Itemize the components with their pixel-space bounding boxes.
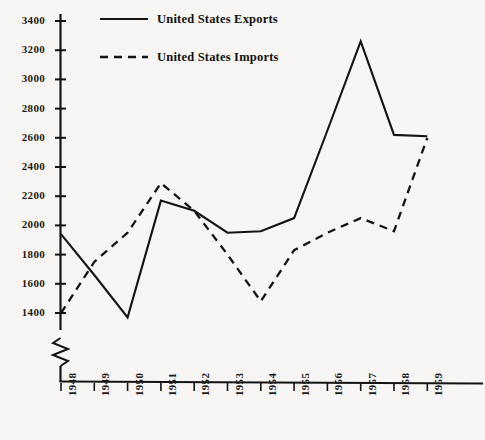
legend-label-imports: United States Imports <box>157 50 279 65</box>
y-tick-label: 3000 <box>5 72 45 84</box>
y-tick-label: 2400 <box>5 160 45 172</box>
x-tick-label: 1958 <box>399 373 411 396</box>
y-tick-label: 2600 <box>5 131 45 143</box>
exports-line <box>61 41 427 317</box>
x-tick-label: 1951 <box>166 373 178 396</box>
x-tick-label: 1959 <box>432 373 444 396</box>
y-tick-label: 2200 <box>5 189 45 201</box>
x-tick-label: 1950 <box>133 373 145 396</box>
x-tick-label: 1948 <box>66 373 78 396</box>
x-tick-label: 1953 <box>233 373 245 396</box>
legend-label-exports: United States Exports <box>157 12 278 27</box>
axis-break-symbol <box>53 338 68 366</box>
y-tick-label: 2800 <box>5 102 45 114</box>
y-tick-label: 1800 <box>5 248 45 260</box>
y-tick-label: 1400 <box>5 306 45 318</box>
y-tick-label: 2000 <box>5 218 45 230</box>
x-tick-label: 1955 <box>299 373 311 396</box>
imports-line <box>61 138 427 313</box>
x-tick-label: 1957 <box>366 373 378 396</box>
x-tick-label: 1952 <box>199 373 211 396</box>
line-chart-figure: 3400320030002800260024002200200018001600… <box>0 0 485 440</box>
y-tick-label: 1600 <box>5 277 45 289</box>
x-tick-label: 1949 <box>99 373 111 396</box>
y-tick-label: 3200 <box>5 43 45 55</box>
y-tick-label: 3400 <box>5 14 45 26</box>
x-tick-label: 1954 <box>266 373 278 396</box>
x-tick-label: 1956 <box>332 373 344 396</box>
